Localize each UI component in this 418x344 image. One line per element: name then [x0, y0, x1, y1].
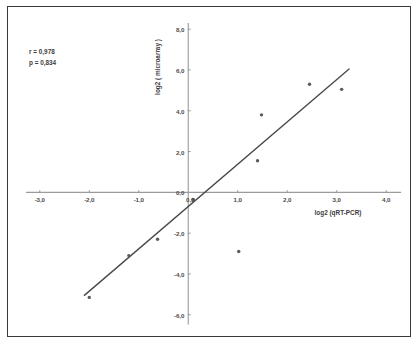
- regression-line: [84, 69, 349, 295]
- figure-container: r = 0,978 p = 0,834 log2 (qRT-PCR) log2 …: [0, 0, 418, 344]
- y-axis-title: log2 ( microarray ): [154, 39, 161, 95]
- data-point: [308, 83, 311, 86]
- y-tick-label: 4,0: [176, 107, 184, 114]
- axes-group: [26, 23, 401, 325]
- x-tick-label: -3,0: [35, 196, 45, 203]
- plot-canvas: [8, 7, 412, 338]
- figure-frame: r = 0,978 p = 0,834 log2 (qRT-PCR) log2 …: [7, 6, 411, 337]
- y-tick-label: -6,0: [174, 311, 184, 318]
- y-tick-label: 8,0: [176, 26, 184, 33]
- data-point: [340, 88, 343, 91]
- x-tick-label: 1,0: [234, 196, 242, 203]
- data-point: [237, 250, 240, 253]
- y-tick-label: 6,0: [176, 66, 184, 73]
- y-tick-label: -4,0: [174, 270, 184, 277]
- correlation-stats: r = 0,978 p = 0,834: [29, 47, 56, 68]
- x-tick-label: 0,0: [186, 196, 194, 203]
- r-value: r = 0,978: [29, 47, 56, 58]
- p-value: p = 0,834: [29, 58, 56, 69]
- data-point: [260, 113, 263, 116]
- y-tick-label: 0,0: [176, 189, 184, 196]
- x-tick-label: 2,0: [283, 196, 291, 203]
- x-tick-label: -2,0: [84, 196, 94, 203]
- x-tick-label: 3,0: [333, 196, 341, 203]
- data-point: [88, 296, 91, 299]
- x-axis-title: log2 (qRT-PCR): [315, 209, 362, 216]
- scatter-plot: r = 0,978 p = 0,834 log2 (qRT-PCR) log2 …: [8, 7, 412, 338]
- data-point: [156, 238, 159, 241]
- y-tick-label: 2,0: [176, 148, 184, 155]
- x-tick-label: -1,0: [134, 196, 144, 203]
- x-tick-label: 4,0: [382, 196, 390, 203]
- regression-line-group: [84, 69, 349, 295]
- data-point: [127, 254, 130, 257]
- y-tick-label: -2,0: [174, 230, 184, 237]
- data-points-group: [88, 83, 344, 300]
- tick-marks-group: [40, 29, 386, 315]
- data-point: [256, 159, 259, 162]
